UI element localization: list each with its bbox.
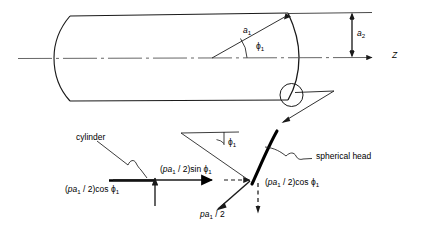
force-arrow-resultant — [216, 181, 250, 211]
radius-label-a1: a1 — [243, 26, 251, 36]
head-label-leader — [265, 147, 312, 159]
force-label-right-cos-component: (pa1 / 2)cos ϕ1 — [265, 178, 319, 188]
cylinder-label-leader — [97, 141, 147, 178]
angle-label-phi1-upper: ϕ1 — [256, 42, 264, 52]
engineering-figure: a1 ϕ1 a2 Z cylinder spherical head ϕ1 (p… — [0, 0, 421, 227]
force-label-sin-component: (pa1 / 2)sin ϕ1 — [160, 165, 212, 175]
angle-label-phi1-detail: ϕ1 — [228, 138, 236, 148]
force-arrow-right-cos-component — [256, 183, 261, 214]
force-label-left-cos-component: (pa1 / 2)cos ϕ1 — [65, 185, 119, 195]
dimension-label-a2: a2 — [357, 29, 365, 39]
cylinder-outline — [54, 13, 299, 101]
detail-callout-leader — [282, 91, 335, 123]
cylinder-centerline — [18, 58, 372, 59]
radius-line-a1 — [212, 13, 291, 58]
cylinder-label: cylinder — [76, 133, 105, 142]
force-label-resultant: pa1 / 2 — [200, 210, 225, 220]
spherical-head-label: spherical head — [316, 152, 371, 161]
detail-callout-circle — [280, 84, 303, 107]
axis-label-z: Z — [392, 51, 397, 60]
